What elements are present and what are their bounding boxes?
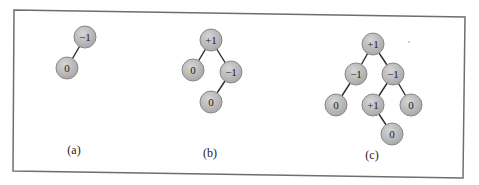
tree-node: −1 <box>220 61 242 83</box>
node-balance-label: 0 <box>408 99 414 111</box>
scan-speck <box>408 41 410 43</box>
node-balance-label: −1 <box>387 68 399 80</box>
tree-node: −1 <box>382 63 404 85</box>
subfigure-label-c: (c) <box>365 148 378 162</box>
tree-node: 0 <box>182 59 204 81</box>
node-balance-label: +1 <box>367 99 379 111</box>
subfigure-label-a: (a) <box>67 143 80 157</box>
node-balance-label: 0 <box>389 128 395 140</box>
node-balance-label: 0 <box>208 96 214 108</box>
node-balance-label: −1 <box>225 66 237 78</box>
tree-node: 0 <box>325 94 347 116</box>
node-balance-label: 0 <box>333 99 339 111</box>
subfigure-label-b: (b) <box>203 146 217 160</box>
node-balance-label: +1 <box>367 38 379 50</box>
node-balance-label: −1 <box>79 31 91 43</box>
avl-tree-figure: −10(a)+10−10(b)+1−1−10+100(c) <box>0 0 479 185</box>
node-balance-label: 0 <box>64 62 70 74</box>
tree-node: 0 <box>56 57 78 79</box>
node-balance-label: +1 <box>205 34 217 46</box>
node-balance-label: 0 <box>190 64 196 76</box>
node-balance-label: −1 <box>350 68 362 80</box>
tree-node: +1 <box>362 33 384 55</box>
tree-node: +1 <box>362 94 384 116</box>
tree-node: +1 <box>200 29 222 51</box>
tree-node: −1 <box>345 63 367 85</box>
tree-node: 0 <box>381 123 403 145</box>
tree-node: 0 <box>200 91 222 113</box>
tree-node: 0 <box>400 94 422 116</box>
tree-node: −1 <box>74 26 96 48</box>
